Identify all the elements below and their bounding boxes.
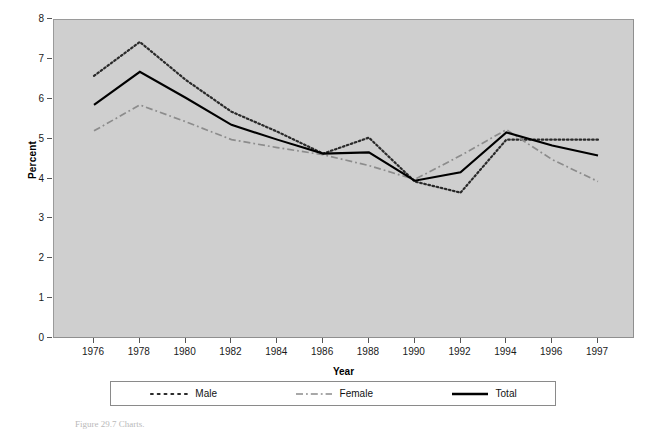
y-axis-tick-label: 3 (38, 212, 44, 224)
legend-item-total[interactable]: Total (450, 388, 517, 399)
y-axis-tick-mark (47, 18, 52, 19)
y-axis-tick-label: 5 (38, 133, 44, 145)
y-axis-tick: 7 (0, 53, 53, 65)
y-axis-title: Percent (27, 120, 38, 200)
y-axis-tick-mark (47, 217, 52, 218)
y-axis-tick-label: 0 (38, 332, 44, 344)
y-axis-tick-mark (47, 98, 52, 99)
series-line-male (94, 42, 598, 193)
series-line-female (94, 105, 598, 182)
legend-swatch-female-icon (294, 389, 334, 399)
y-axis-tick: 0 (0, 332, 53, 344)
x-axis-tick-mark (185, 338, 186, 343)
series-line-total (94, 72, 598, 181)
y-axis-tick-mark (47, 58, 52, 59)
plot-lines (54, 20, 635, 339)
figure-caption: Figure 29.7 Charts. (75, 419, 635, 429)
y-axis-tick-mark (47, 337, 52, 338)
x-axis-tick-mark (139, 338, 140, 343)
legend-swatch-total-icon (450, 389, 490, 399)
plot-area (53, 19, 634, 338)
x-axis-tick-mark (230, 338, 231, 343)
x-axis-tick-mark (93, 338, 94, 343)
y-axis-tick: 3 (0, 212, 53, 224)
y-axis-tick-mark (47, 297, 52, 298)
x-axis-tick-mark (460, 338, 461, 343)
x-axis-title: Year (53, 366, 634, 377)
x-axis-tick-mark (276, 338, 277, 343)
x-axis-tick-mark (368, 338, 369, 343)
y-axis-tick-label: 7 (38, 53, 44, 65)
y-axis-tick: 6 (0, 93, 53, 105)
y-axis-tick-label: 4 (38, 173, 44, 185)
x-axis-tick-mark (322, 338, 323, 343)
legend-item-female[interactable]: Female (294, 388, 373, 399)
y-axis-tick-label: 6 (38, 93, 44, 105)
legend-label: Female (340, 388, 373, 399)
x-axis-tick-label: 1997 (567, 346, 627, 357)
y-axis-tick: 8 (0, 13, 53, 25)
y-axis-tick: 1 (0, 292, 53, 304)
y-axis-tick: 2 (0, 252, 53, 264)
y-axis-tick-mark (47, 138, 52, 139)
y-axis-tick-label: 1 (38, 292, 44, 304)
x-axis: 1976197819801982198419861988199019921994… (53, 338, 634, 368)
x-axis-tick-mark (551, 338, 552, 343)
legend-label: Total (496, 388, 517, 399)
x-axis-tick-mark (597, 338, 598, 343)
chart-legend: MaleFemaleTotal (110, 381, 556, 406)
legend-label: Male (195, 388, 217, 399)
x-axis-tick-mark (505, 338, 506, 343)
y-axis-tick-mark (47, 257, 52, 258)
legend-swatch-male-icon (149, 389, 189, 399)
legend-item-male[interactable]: Male (149, 388, 217, 399)
y-axis-tick-mark (47, 178, 52, 179)
x-axis-tick-mark (414, 338, 415, 343)
y-axis-tick-label: 2 (38, 252, 44, 264)
y-axis-tick-label: 8 (38, 13, 44, 25)
chart-page: 876543210 Percent 1976197819801982198419… (0, 0, 664, 429)
